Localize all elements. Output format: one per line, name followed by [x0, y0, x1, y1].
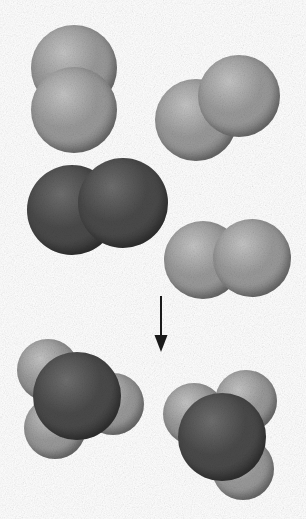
- molecular-reaction-figure: [0, 0, 306, 519]
- water-molecule: [0, 0, 306, 519]
- oxygen-atom-sphere: [178, 393, 266, 481]
